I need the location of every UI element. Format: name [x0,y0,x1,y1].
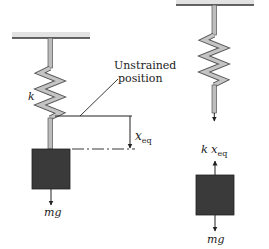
spring-constant-label: k [28,90,35,103]
spring-mass-diagram: k Unstrained position xeq mg [0,0,269,249]
spring-force-label: kxeq [201,142,227,158]
right-mass-block [196,175,234,215]
right-panel: kxeq mg [176,0,254,246]
left-panel: k Unstrained position xeq mg [12,32,176,219]
displacement-label: xeq [135,129,152,145]
unstrained-label-line2: position [118,72,162,85]
left-weight-label: mg [44,206,61,219]
right-spring [204,5,224,121]
left-mass-block [32,149,70,189]
right-ceiling [176,0,254,5]
unstrained-label-line1: Unstrained [114,59,176,72]
right-weight-label: mg [207,233,224,246]
left-spring [40,38,60,149]
unstrained-leader-line [80,79,118,116]
left-ceiling [12,32,90,38]
